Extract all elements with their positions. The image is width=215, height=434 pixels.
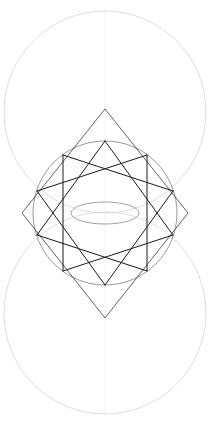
canvas-background [0,0,215,434]
geometry-canvas [0,0,215,434]
geometry-figure [0,0,215,434]
